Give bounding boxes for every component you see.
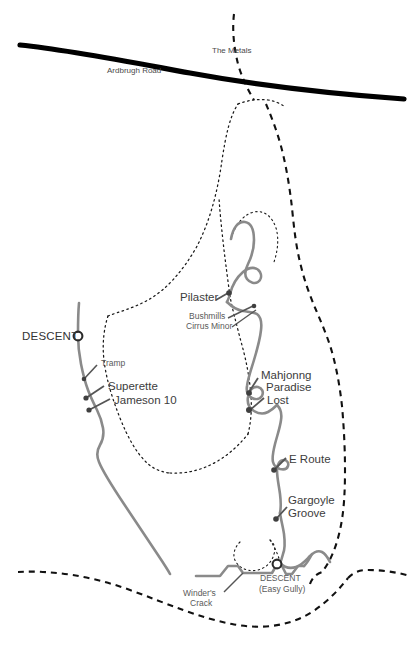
label-superette: Superette [108, 380, 158, 392]
label-descent-upper-left: DESCENT [22, 330, 78, 342]
tick-dot-e-route [271, 467, 277, 473]
crag-topo-map: Ardbrugh Road The Metals DESCENT Tramp S… [0, 0, 414, 657]
topo-svg-canvas: Ardbrugh Road The Metals DESCENT Tramp S… [0, 0, 414, 657]
label-the-metals: The Metals [212, 46, 252, 55]
label-gargoyle: Gargoyle [288, 494, 335, 506]
label-lost: Lost [267, 394, 290, 406]
label-paradise: Paradise [266, 381, 311, 393]
label-groove: Groove [288, 507, 326, 519]
label-bushmills: Bushmills [189, 311, 225, 321]
label-winders: Winder's [183, 588, 216, 598]
descent-marker-easy-gully[interactable] [273, 560, 282, 569]
label-cirrus-minor: Cirrus Minor [186, 321, 232, 331]
tick-dot-tramp [82, 377, 87, 382]
label-tramp: Tramp [101, 358, 126, 368]
tick-dot-paradise-lost [246, 407, 252, 413]
label-e-route: E Route [289, 453, 331, 465]
label-pilaster: Pilaster [180, 291, 219, 303]
tick-dot-pilaster [226, 290, 232, 296]
label-descent-easy-gully: DESCENT [260, 573, 301, 583]
tick-dot-jameson [86, 407, 91, 412]
label-crack: Crack [190, 598, 213, 608]
tick-dot-mahjonng [246, 390, 252, 396]
label-ardbrugh-road: Ardbrugh Road [107, 66, 161, 75]
tick-dot-superette [83, 395, 88, 400]
label-descent-easy-gully-sub: (Easy Gully) [259, 584, 305, 594]
tick-dot-bushmills [252, 304, 257, 309]
label-mahjonng: Mahjonng [261, 369, 312, 381]
tick-dot-gargoyle-groove [273, 516, 279, 522]
label-jameson-10: Jameson 10 [114, 394, 177, 406]
